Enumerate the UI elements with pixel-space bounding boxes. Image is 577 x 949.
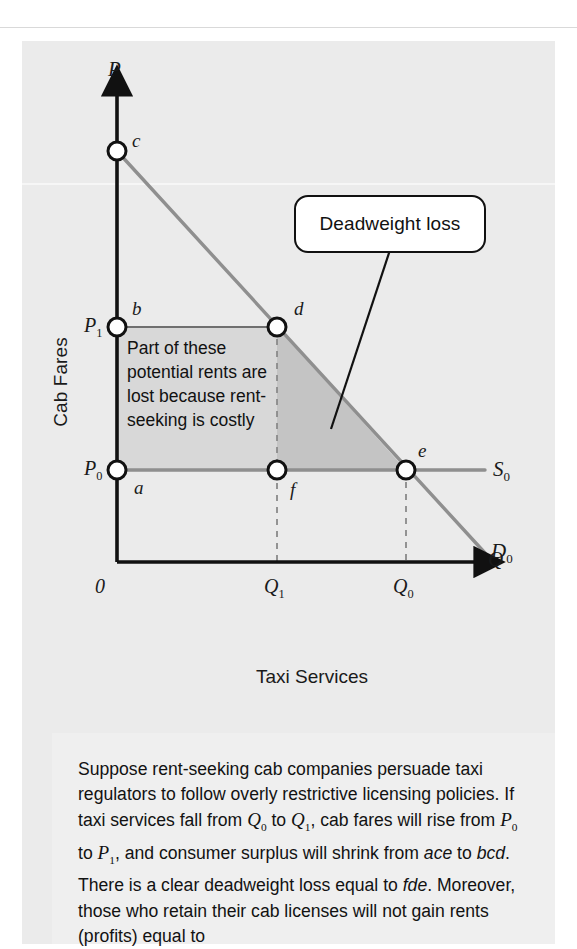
point-marker-a bbox=[108, 461, 126, 479]
caption-seg-6: to bbox=[452, 843, 476, 863]
x-tick-q1: Q1 bbox=[264, 576, 285, 600]
point-label-e: e bbox=[418, 441, 426, 460]
rent-note-text: Part of these potential rents are lost b… bbox=[127, 336, 289, 432]
point-marker-b bbox=[108, 318, 126, 336]
x-tick-q0: Q0 bbox=[393, 576, 414, 600]
x-tick-q0-letter: Q bbox=[393, 575, 407, 597]
caption-seg-4: to bbox=[78, 843, 98, 863]
deadweight-loss-callout-text: Deadweight loss bbox=[320, 213, 461, 235]
caption-seg-3: , cab fares will rise from bbox=[310, 810, 500, 830]
curve-label-s0-letter: S bbox=[493, 457, 504, 481]
x-tick-q1-letter: Q bbox=[264, 575, 278, 597]
point-marker-c bbox=[108, 142, 126, 160]
curve-label-d0-letter: D bbox=[491, 539, 506, 563]
callout-leader-line bbox=[331, 250, 390, 429]
point-marker-f bbox=[268, 461, 286, 479]
curve-label-d0: D0 bbox=[491, 541, 513, 565]
deadweight-loss-callout: Deadweight loss bbox=[294, 195, 486, 253]
caption-sym-q1: Q1 bbox=[291, 809, 310, 830]
caption-term-fde: fde bbox=[403, 875, 427, 895]
y-tick-p1: P1 bbox=[84, 315, 102, 339]
origin-label: 0 bbox=[95, 576, 105, 596]
y-axis-symbol: P bbox=[108, 59, 121, 80]
point-marker-d bbox=[268, 318, 286, 336]
caption-seg-2: to bbox=[267, 810, 291, 830]
curve-label-d0-sub: 0 bbox=[506, 551, 513, 566]
x-tick-q1-sub: 1 bbox=[278, 587, 284, 601]
caption-term-ace: ace bbox=[424, 843, 452, 863]
curve-label-s0: S0 bbox=[493, 459, 510, 483]
x-tick-q0-sub: 0 bbox=[407, 587, 413, 601]
caption-sym-p0: P0 bbox=[500, 809, 517, 830]
point-label-c: c bbox=[132, 131, 140, 150]
point-marker-e bbox=[397, 461, 415, 479]
caption-term-bcd: bcd bbox=[477, 843, 505, 863]
point-label-a: a bbox=[134, 478, 144, 497]
caption-seg-5: , and consumer surplus will shrink from bbox=[115, 843, 424, 863]
y-axis-title: Cab Fares bbox=[50, 302, 72, 462]
x-axis-title: Taxi Services bbox=[182, 666, 442, 688]
y-tick-p1-letter: P bbox=[84, 314, 96, 336]
caption-sym-p1: P1 bbox=[98, 842, 115, 863]
y-tick-p0-letter: P bbox=[84, 457, 96, 479]
y-tick-p0-sub: 0 bbox=[96, 469, 102, 483]
curve-label-s0-sub: 0 bbox=[504, 469, 511, 484]
figure-caption: Suppose rent-seeking cab companies persu… bbox=[78, 757, 534, 949]
point-label-b: b bbox=[132, 299, 142, 318]
caption-sym-q0: Q0 bbox=[247, 809, 266, 830]
y-tick-p1-sub: 1 bbox=[96, 326, 102, 340]
point-label-f: f bbox=[290, 480, 295, 499]
economics-graph: P Q Cab Fares Taxi Services 0 P1 P0 Q1 Q… bbox=[22, 41, 555, 733]
page-top-rule bbox=[0, 27, 577, 28]
y-tick-p0: P0 bbox=[84, 458, 102, 482]
point-label-d: d bbox=[294, 299, 304, 318]
